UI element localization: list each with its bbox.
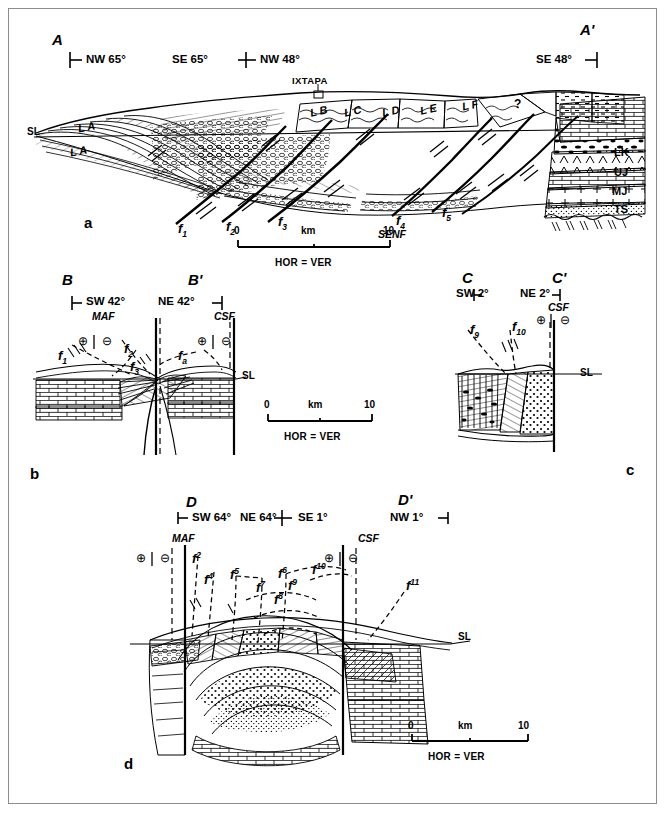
bearing-a-nw65: NW 65°	[86, 54, 126, 66]
fault-label-f10-c: f10	[512, 320, 526, 336]
bearing-a-se48: SE 48°	[536, 54, 572, 66]
fault-label-f6-d: f6	[278, 566, 287, 580]
panel-letter-c: c	[626, 462, 634, 477]
figure-root: A A' NW 65° SE 65° NW 48° SE 48° IXTAPA …	[0, 0, 667, 814]
bearing-a-nw48: NW 48°	[260, 54, 300, 66]
fault-system-csf-b: CSF	[214, 311, 235, 322]
polarity-positive-d-left: ⊕	[136, 552, 146, 564]
fault-label-f7-d: f7	[256, 580, 265, 594]
fault-label-f3-b: f3	[130, 360, 139, 376]
scale-d-unit: km	[458, 721, 472, 731]
sea-level-label-a: SL	[27, 127, 40, 137]
strat-unit-ts: TS	[614, 204, 628, 215]
fault-label-f10-d: f10	[312, 562, 326, 576]
bearing-d-sw64: SW 64°	[192, 512, 231, 524]
fault-label-f9-d: f9	[288, 578, 297, 592]
polarity-negative-b-right: ⊖	[221, 335, 231, 347]
fault-system-maf-d: MAF	[172, 533, 195, 544]
section-c-left-endpoint: C	[462, 270, 473, 285]
fault-label-f1-b: f1	[58, 349, 67, 365]
panel-letter-a: a	[84, 215, 92, 230]
polarity-positive-b-left: ⊕	[78, 335, 88, 347]
sea-level-label-d: SL	[458, 632, 471, 642]
section-a-left-endpoint: A	[52, 32, 63, 47]
fault-label-f4-d: f4	[204, 572, 213, 586]
strat-unit-uj: UJ	[614, 167, 628, 178]
scale-a-unit: km	[301, 226, 315, 236]
section-d-left-endpoint: D	[186, 494, 197, 509]
fault-label-f8-d: f8	[274, 592, 283, 606]
polarity-negative-b-left: ⊖	[102, 335, 112, 347]
scale-b-max: 10	[364, 400, 375, 410]
bearing-d-se1: SE 1°	[298, 512, 328, 524]
scale-d-note: HOR = VER	[428, 752, 485, 762]
figure-border	[8, 8, 657, 804]
bearing-d-ne64: NE 64°	[240, 512, 277, 524]
section-b-right-endpoint: B'	[188, 272, 202, 287]
fault-label-f5-a: f5	[442, 206, 451, 222]
strat-unit-mj: MJ	[612, 186, 627, 197]
section-c-right-endpoint: C'	[552, 270, 566, 285]
polarity-negative-d-left: ⊖	[160, 552, 170, 564]
query-mark-a: ?	[514, 98, 521, 110]
fault-label-fa-b: fa	[178, 349, 187, 365]
fault-label-f1-a: f1	[178, 222, 187, 238]
fault-label-f5-d: f5	[230, 567, 239, 581]
town-label-ixtapa: IXTAPA	[292, 76, 328, 86]
polarity-positive-b-right: ⊕	[197, 335, 207, 347]
bearing-d-nw1: NW 1°	[390, 512, 423, 524]
scale-d-min: 0	[408, 721, 414, 731]
fault-label-f2-d: f2	[192, 551, 201, 565]
panel-letter-b: b	[30, 466, 39, 481]
fault-system-csf-d: CSF	[358, 533, 379, 544]
sea-level-label-c: SL	[580, 368, 593, 378]
sea-level-label-b: SL	[242, 371, 255, 381]
fault-system-maf-b: MAF	[92, 311, 115, 322]
bearing-c-sw2: SW 2°	[456, 288, 489, 300]
scale-b-note: HOR = VER	[284, 432, 341, 442]
scale-a-max: 10	[383, 226, 394, 236]
bearing-a-se65: SE 65°	[172, 54, 208, 66]
section-a-right-endpoint: A'	[580, 22, 594, 37]
scale-a-min: 0	[234, 226, 240, 236]
scale-b-unit: km	[308, 400, 322, 410]
panel-letter-d: d	[124, 756, 133, 771]
fault-label-f2-b: f2	[124, 342, 133, 358]
bearing-c-ne2: NE 2°	[520, 288, 550, 300]
fault-label-f11-d: f11	[406, 578, 419, 592]
section-d-right-endpoint: D'	[398, 492, 412, 507]
scale-b-min: 0	[264, 400, 270, 410]
strat-unit-lk: LK	[614, 147, 629, 158]
scale-a-note: HOR = VER	[275, 258, 332, 268]
polarity-negative-d-right: ⊖	[348, 552, 358, 564]
bearing-b-ne42: NE 42°	[158, 296, 195, 308]
fault-label-f3-a: f3	[278, 215, 287, 231]
scale-d-max: 10	[518, 721, 529, 731]
polarity-positive-c: ⊕	[536, 314, 546, 326]
fault-label-f9-c: f9	[470, 323, 479, 339]
fault-system-csf-c: CSF	[548, 302, 569, 313]
section-b-left-endpoint: B	[62, 272, 73, 287]
bearing-b-sw42: SW 42°	[86, 296, 125, 308]
polarity-negative-c: ⊖	[560, 314, 570, 326]
